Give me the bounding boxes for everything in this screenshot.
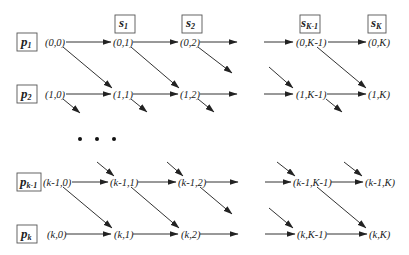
horizontal-edges	[66, 42, 367, 234]
stage-label-sK: sK	[368, 15, 386, 33]
processor-label-pk: pk	[17, 225, 37, 243]
processor-label-pk-1: pk-1	[17, 173, 41, 191]
stage-label-s1: s1	[115, 15, 135, 33]
node-1-K: (1,K)	[368, 89, 390, 101]
row-k-1-nodes: (k-1,0) (k-1,1) (k-1,2) (k-1,K-1) (k-1,K…	[43, 177, 396, 189]
node-0-0: (0,0)	[45, 37, 66, 49]
processor-label-p2: p2	[17, 85, 37, 103]
processor-label-p1: p1	[17, 33, 37, 51]
ellipsis-dots	[78, 137, 116, 141]
node-0-K: (0,K)	[368, 37, 390, 49]
node-k-1-K-1: (k-1,K-1)	[293, 177, 332, 189]
row-0-nodes: (0,0) (0,1) (0,2) (0,K-1) (0,K)	[45, 37, 390, 49]
stage-label-sK-1: sK-1	[300, 15, 320, 33]
diagonal-edges	[63, 47, 366, 228]
row-k-nodes: (k,0) (k,1) (k,2) (k,K-1) (k,K)	[47, 229, 391, 241]
stage-label-s2: s2	[182, 15, 202, 33]
node-0-K-1: (0,K-1)	[296, 37, 327, 49]
node-k-1-2: (k-1,2)	[178, 177, 207, 189]
node-1-0: (1,0)	[45, 89, 66, 101]
node-k-0: (k,0)	[47, 229, 67, 241]
node-1-2: (1,2)	[180, 89, 201, 101]
node-k-1-1: (k-1,1)	[110, 177, 139, 189]
row-1-nodes: (1,0) (1,1) (1,2) (1,K-1) (1,K)	[45, 89, 390, 101]
node-0-2: (0,2)	[180, 37, 201, 49]
node-k-1: (k,1)	[114, 229, 134, 241]
node-k-K-1: (k,K-1)	[297, 229, 328, 241]
node-k-1-0: (k-1,0)	[43, 177, 72, 189]
node-1-1: (1,1)	[113, 89, 134, 101]
node-k-1-K: (k-1,K)	[365, 177, 396, 189]
lattice-diagram: p1 p2 pk-1 pk s1 s2 sK-1 sK (0,0) (0,1) …	[0, 0, 409, 255]
node-1-K-1: (1,K-1)	[296, 89, 327, 101]
node-k-K: (k,K)	[369, 229, 391, 241]
node-k-2: (k,2)	[181, 229, 201, 241]
node-0-1: (0,1)	[113, 37, 134, 49]
